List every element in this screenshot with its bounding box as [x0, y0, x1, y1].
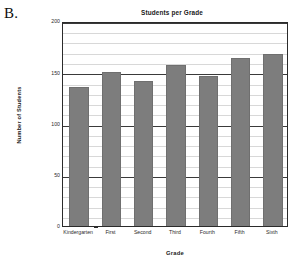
- x-tick-label: Second: [127, 230, 159, 235]
- bar: [69, 87, 88, 226]
- bar: [102, 72, 121, 226]
- bar: [134, 81, 153, 226]
- y-tick-label: 200: [38, 19, 60, 24]
- chart-title: Students per Grade: [62, 9, 282, 16]
- x-tick-label: First: [94, 230, 126, 235]
- x-tick-label: Fifth: [223, 230, 255, 235]
- y-tick-label: 150: [38, 71, 60, 76]
- bar: [231, 58, 250, 226]
- x-axis-title: Grade: [62, 250, 288, 256]
- bar: [199, 76, 218, 226]
- x-tick-label: Fourth: [191, 230, 223, 235]
- y-tick-label: 50: [38, 173, 60, 178]
- y-tick-label: 100: [38, 122, 60, 127]
- y-tick-mark: [94, 227, 98, 228]
- y-axis-title: Number of Students: [16, 63, 22, 167]
- x-tick-label: Sixth: [256, 230, 288, 235]
- bar: [263, 54, 282, 226]
- y-axis-tick-labels: 050100150200: [36, 22, 60, 227]
- bars-layer: [63, 23, 287, 226]
- x-tick-label: Third: [159, 230, 191, 235]
- y-tick-label: 0: [38, 224, 60, 229]
- bar: [166, 65, 185, 226]
- x-axis-tick-labels: KindergartenFirstSecondThirdFourthFifthS…: [62, 230, 288, 242]
- bar-chart: Students per Grade Number of Students 05…: [0, 0, 294, 267]
- x-tick-label: Kindergarten: [62, 230, 94, 235]
- plot-area: [62, 22, 288, 227]
